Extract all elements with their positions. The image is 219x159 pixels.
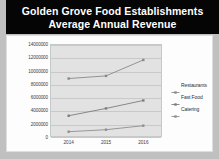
legend-item[interactable]: Restaurants xyxy=(171,80,215,90)
data-point-marker xyxy=(142,125,144,127)
chart-title-line-1: Golden Grove Food Establishments xyxy=(22,5,204,18)
line-marker-icon xyxy=(171,94,180,101)
data-point-marker xyxy=(142,99,144,101)
data-point-marker xyxy=(67,77,69,79)
y-axis-tick-label: 4000000 xyxy=(31,108,48,113)
gridline xyxy=(51,137,161,138)
data-point-marker xyxy=(67,130,69,132)
legend-item[interactable]: Catering xyxy=(171,104,215,114)
chart-panel: 1400000012000000100000008000000600000040… xyxy=(6,35,213,152)
y-axis-tick-label: 10000000 xyxy=(28,68,48,73)
line-marker-icon xyxy=(171,82,180,89)
data-point-marker xyxy=(67,115,69,117)
y-axis-tick-label: 14000000 xyxy=(28,42,48,47)
chart-legend: RestaurantsFast FoodCatering xyxy=(171,80,215,116)
x-axis-labels: 201420152016 xyxy=(50,140,162,150)
data-point-marker xyxy=(105,75,107,77)
chart-screenshot: Golden Grove Food Establishments Average… xyxy=(0,0,219,159)
y-axis-tick-label: 8000000 xyxy=(31,81,48,86)
data-point-marker xyxy=(105,107,107,109)
series-overlay xyxy=(50,44,162,137)
chart-title-line-2: Average Annual Revenue xyxy=(48,18,176,31)
y-axis-tick-label: 12000000 xyxy=(28,55,48,60)
x-axis-tick-label: 2014 xyxy=(64,140,74,145)
x-axis-tick-label: 2015 xyxy=(101,140,111,145)
legend-item-label: Restaurants xyxy=(181,82,207,88)
chart-title-banner: Golden Grove Food Establishments Average… xyxy=(6,0,219,34)
data-point-marker xyxy=(105,128,107,130)
x-axis-tick-label: 2016 xyxy=(138,140,148,145)
legend-item[interactable]: Fast Food xyxy=(171,92,215,102)
legend-item-label: Catering xyxy=(181,106,199,112)
y-axis-tick-label: 0 xyxy=(46,135,48,140)
data-point-marker xyxy=(142,59,144,61)
line-marker-icon xyxy=(171,106,180,113)
legend-item-label: Fast Food xyxy=(181,94,203,100)
y-axis-tick-label: 6000000 xyxy=(31,95,48,100)
y-axis-tick-label: 2000000 xyxy=(31,121,48,126)
plot-wrapper: 1400000012000000100000008000000600000040… xyxy=(7,36,214,153)
y-axis-labels: 1400000012000000100000008000000600000040… xyxy=(7,44,48,137)
